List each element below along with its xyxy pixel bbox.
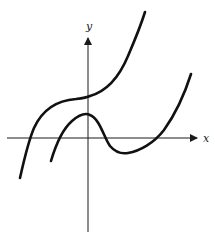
lower-curve — [51, 74, 191, 161]
x-axis-label: x — [203, 132, 210, 145]
graph-figure: x y — [0, 0, 215, 239]
coordinate-plane: x y — [0, 0, 215, 239]
y-axis-label: y — [85, 20, 93, 33]
